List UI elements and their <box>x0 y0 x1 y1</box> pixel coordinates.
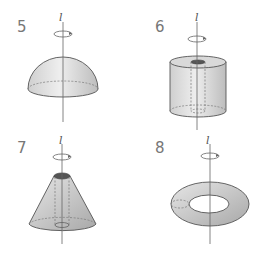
cone-icon <box>0 132 139 264</box>
figure-6-cylinder: 6 l <box>139 0 278 132</box>
figure-7-cone: 7 l <box>0 132 139 264</box>
cylinder-icon <box>139 0 278 132</box>
figure-5-hemisphere: 5 l <box>0 0 139 132</box>
figure-8-torus: 8 l <box>139 132 278 264</box>
hemisphere-icon <box>0 0 139 132</box>
torus-icon <box>139 132 278 264</box>
